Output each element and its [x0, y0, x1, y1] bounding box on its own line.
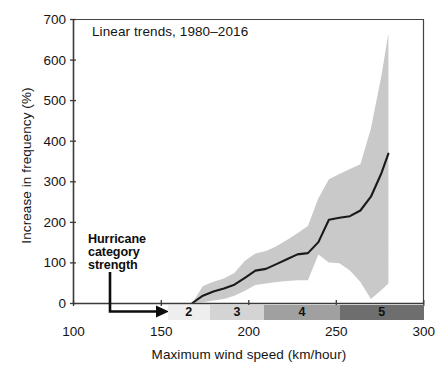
x-tick-250: 250: [313, 324, 359, 339]
x-tick-150: 150: [138, 324, 184, 339]
category-label-4: 4: [264, 305, 339, 320]
chart-title: Linear trends, 1980–2016: [92, 24, 248, 39]
category-label-3: 3: [210, 305, 264, 320]
annotation-line-3: strength: [88, 259, 146, 272]
x-tick-200: 200: [226, 324, 272, 339]
uncertainty-band: [192, 33, 388, 303]
x-tick-100: 100: [51, 324, 97, 339]
hurricane-category-annotation: Hurricane category strength: [88, 233, 146, 273]
x-axis-label: Maximum wind speed (km/hour): [73, 347, 425, 362]
x-tick-300: 300: [401, 324, 447, 339]
category-label-5: 5: [340, 305, 424, 320]
chart-figure: Increase in frequency (%) 700 600 500 40…: [0, 0, 447, 373]
hurricane-category-arrow: [110, 272, 169, 317]
category-label-2: 2: [168, 305, 210, 320]
